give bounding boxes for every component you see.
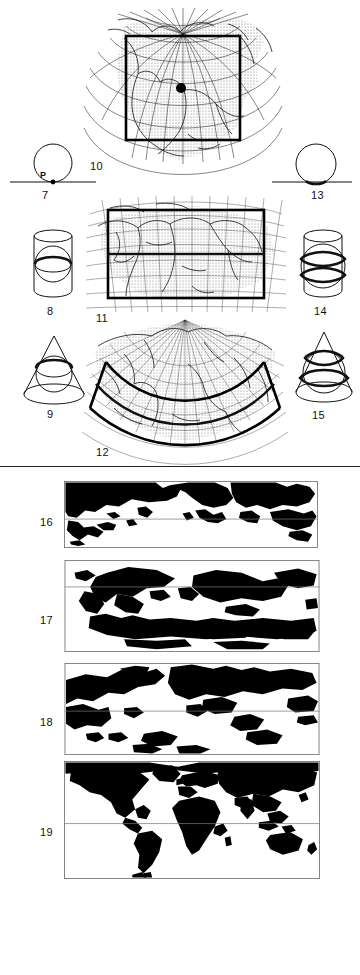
cone-base-front-9: [24, 394, 84, 404]
figure-13-label: 13: [311, 190, 324, 201]
figure-7-tangent-plane: [8, 140, 98, 192]
tangent-circle-9: [36, 360, 72, 368]
globe-equator-front-8: [35, 264, 71, 272]
figure-7-label: 7: [42, 190, 48, 201]
section-divider: [0, 466, 360, 467]
figure-8-tangent-cylinder: [18, 226, 88, 302]
cylinder-top-ellipse-8: [34, 230, 72, 242]
azimuthal-center-point: [176, 83, 186, 93]
figure-17-label: 17: [40, 615, 53, 626]
secant-circle-upper-14: [301, 252, 345, 266]
figure-10-azimuthal-graticule: [88, 8, 278, 168]
globe-circle-13: [296, 144, 336, 184]
figure-12-conic-graticule: [84, 318, 286, 446]
azimuthal-landmass-stipple: [116, 18, 264, 160]
tangency-point-dot: [51, 180, 56, 185]
cylinder-bottom-arc-8: [34, 290, 72, 297]
figure-14-secant-cylinder: [292, 226, 358, 304]
globe-equator-front-9: [36, 368, 72, 377]
figure-17-world-map: [64, 560, 320, 652]
figure-13-secant-plane: [272, 140, 358, 192]
figure-12-label: 12: [96, 447, 109, 458]
figure-19-label: 19: [40, 827, 53, 838]
secant-circle-upper-15: [305, 351, 343, 365]
secant-circle-lower-15: [300, 370, 348, 386]
figure-11-cylindrical-graticule: [86, 196, 286, 314]
globe-circle-8: [35, 246, 71, 282]
figure-14-label: 14: [314, 306, 327, 317]
cylinder-top-ellipse-14: [304, 230, 342, 242]
cylinder-bottom-arc-14: [304, 290, 342, 297]
figure-9-label: 9: [47, 409, 53, 420]
tangent-circle-8: [35, 257, 71, 264]
figure-15-label: 15: [312, 410, 325, 421]
point-p-label: P: [40, 171, 46, 180]
figure-15-secant-cone: [288, 330, 360, 410]
figure-19-world-map: [64, 761, 320, 879]
figure-16-label: 16: [40, 517, 53, 528]
figure-8-label: 8: [47, 306, 53, 317]
figure-9-tangent-cone: [14, 332, 94, 410]
figure-18-label: 18: [40, 717, 53, 728]
figure-18-world-map: [64, 663, 320, 755]
secant-circle-lower-14: [301, 268, 345, 282]
figure-16-world-map: [64, 481, 318, 548]
